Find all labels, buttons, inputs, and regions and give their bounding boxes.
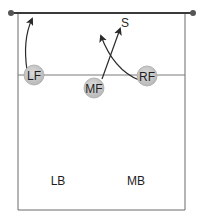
arrow-lf [26,19,32,70]
player-lf: LF [24,65,44,85]
back-row-label-mb: MB [127,174,145,188]
player-label: LF [27,69,41,83]
net-post-left-icon [8,10,14,16]
player-rf: RF [137,66,157,86]
volleyball-court-diagram: S LF MF RF LB MB [0,0,204,220]
court-boundary [18,13,185,210]
target-label-s: S [121,16,129,30]
net-post-right-icon [190,10,196,16]
arrow-mf-to-s [102,29,120,79]
player-label: RF [139,70,155,84]
back-row-label-lb: LB [51,174,66,188]
player-mf: MF [84,78,104,98]
player-label: MF [85,82,102,96]
net [8,10,196,16]
arrow-rf [101,36,139,80]
